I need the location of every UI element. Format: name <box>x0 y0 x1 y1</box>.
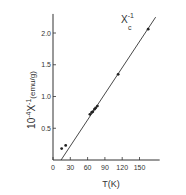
data-point <box>147 28 150 31</box>
data-point <box>64 144 67 147</box>
x-tick-label: 90 <box>101 164 109 171</box>
svg-text:10-4X-1(emu/g): 10-4X-1(emu/g) <box>25 71 37 129</box>
x-tick-label: 60 <box>84 164 92 171</box>
data-point <box>91 110 94 113</box>
annotation-chi-c-inverse: X-1 c <box>121 12 134 31</box>
y-tick-label: 2.0 <box>41 30 51 37</box>
y-tick-label: 0.5 <box>41 125 51 132</box>
y-tick-label: 1.0 <box>41 93 51 100</box>
chart: 03060901201500.51.01.52.0 T(K) 10-4X-1(e… <box>0 0 186 195</box>
x-tick-label: 150 <box>134 164 146 171</box>
x-tick-label: 30 <box>66 164 74 171</box>
svg-text:c: c <box>128 24 132 31</box>
x-tick-label: 120 <box>116 164 128 171</box>
x-tick-label: 0 <box>51 164 55 171</box>
fit-line <box>61 17 156 160</box>
data-point <box>117 73 120 76</box>
data-point <box>96 105 99 108</box>
data-point <box>60 147 63 150</box>
y-tick-label: 1.5 <box>41 61 51 68</box>
x-axis-label: T(K) <box>102 179 120 189</box>
y-axis-label: 10-4X-1(emu/g) <box>25 71 37 129</box>
